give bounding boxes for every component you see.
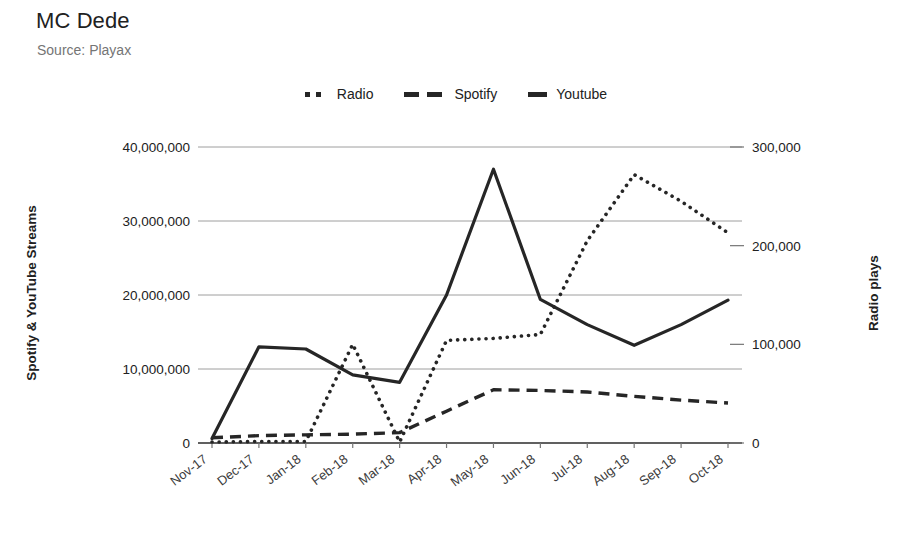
left-axis-ticks: 010,000,00020,000,00030,000,00040,000,00… [122,140,190,451]
left-axis-tick-label: 0 [182,436,190,451]
chart-plot-area: 010,000,00020,000,00030,000,00040,000,00… [0,0,911,536]
x-axis-tick-label: Aug-18 [589,451,632,488]
left-axis-tick-label: 10,000,000 [122,362,190,377]
chart-card: MC Dede Source: Playax Radio Spotify You… [0,0,911,536]
x-axis-tick-label: Feb-18 [309,451,351,488]
x-axis-tick-label: Jan-18 [263,451,304,487]
left-axis-title: Spotify & YouTube Streams [24,205,39,381]
x-axis-tick-label: Apr-18 [404,451,444,486]
series-line-spotify [212,390,728,438]
x-axis-tick-label: Nov-17 [167,451,210,488]
left-axis-tick-label: 30,000,000 [122,214,190,229]
right-axis-tick-label: 0 [752,436,760,451]
left-axis-tick-label: 40,000,000 [122,140,190,155]
right-axis-tick-label: 200,000 [752,239,801,254]
data-series-group [212,169,728,442]
x-axis-tick-label: Jun-18 [497,451,538,487]
right-axis-title: Radio plays [866,255,881,331]
x-axis-tick-label: Sep-18 [636,451,679,488]
right-axis-tick-label: 300,000 [752,140,801,155]
x-axis-ticks: Nov-17Dec-17Jan-18Feb-18Mar-18Apr-18May-… [167,443,728,489]
x-axis-tick-label: Oct-18 [686,451,726,486]
series-line-youtube [212,169,728,438]
x-axis-tick-label: May-18 [448,451,492,489]
x-axis-tick-label: Mar-18 [356,451,398,488]
x-axis-tick-label: Dec-17 [214,451,257,488]
series-line-radio [212,175,728,442]
x-axis-tick-label: Jul-18 [548,451,585,484]
left-axis-tick-label: 20,000,000 [122,288,190,303]
right-axis-tick-label: 100,000 [752,337,801,352]
